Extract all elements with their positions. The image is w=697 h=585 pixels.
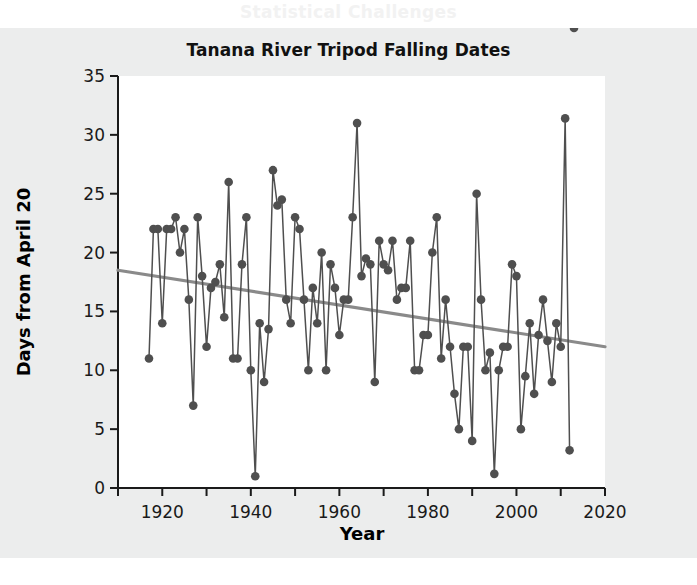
x-tick-label: 1960 (318, 502, 361, 522)
data-point (384, 266, 393, 275)
data-point (331, 284, 340, 293)
data-point (393, 295, 402, 304)
data-point (171, 213, 180, 222)
data-point (477, 295, 486, 304)
data-point (508, 260, 517, 269)
x-tick-label: 1980 (406, 502, 449, 522)
data-point (539, 295, 548, 304)
x-tick-label: 2020 (583, 502, 626, 522)
data-point (517, 425, 526, 434)
page-canvas: Statistical Challenges Tanana River Trip… (0, 0, 697, 585)
x-tick-label: 2000 (495, 502, 538, 522)
data-point (441, 295, 450, 304)
data-point (530, 390, 539, 399)
data-point (548, 378, 557, 387)
data-point (561, 114, 570, 123)
data-point (193, 213, 202, 222)
data-point (233, 354, 242, 363)
data-point (344, 295, 353, 304)
data-point (494, 366, 503, 375)
data-point (220, 313, 229, 322)
x-tick-label: 1940 (229, 502, 272, 522)
data-point (211, 278, 220, 287)
data-point (486, 348, 495, 357)
y-tick-label: 10 (83, 360, 105, 380)
data-point (242, 213, 251, 222)
data-point (463, 342, 472, 351)
data-point (432, 213, 441, 222)
data-point (437, 354, 446, 363)
data-point (570, 28, 579, 32)
y-axis: 05101520253035 (83, 66, 118, 498)
data-point (264, 325, 273, 334)
data-point (375, 237, 384, 246)
data-point (309, 284, 318, 293)
data-point (322, 366, 331, 375)
data-point (313, 319, 322, 328)
data-point (388, 237, 397, 246)
data-point (335, 331, 344, 340)
data-point (189, 401, 198, 410)
data-point (295, 225, 304, 234)
data-point (167, 225, 176, 234)
data-point (224, 178, 233, 187)
data-point (145, 354, 154, 363)
data-point (552, 319, 561, 328)
data-point (401, 284, 410, 293)
data-point (415, 366, 424, 375)
data-point (176, 248, 185, 257)
data-point (326, 260, 335, 269)
data-point (424, 331, 433, 340)
data-point (238, 260, 247, 269)
data-point (317, 248, 326, 257)
x-tick-label: 1920 (141, 502, 184, 522)
data-point (202, 342, 211, 351)
y-tick-label: 25 (83, 184, 105, 204)
data-point (503, 342, 512, 351)
data-point (525, 319, 534, 328)
y-tick-label: 15 (83, 301, 105, 321)
x-axis: 192019401960198020002020 (118, 488, 627, 522)
data-point (185, 295, 194, 304)
figure-container: Tanana River Tripod Falling Dates 051015… (0, 28, 697, 558)
data-point (357, 272, 366, 281)
data-point (282, 295, 291, 304)
data-point (490, 470, 499, 479)
y-axis-title: Days from April 20 (13, 188, 34, 377)
data-point (481, 366, 490, 375)
data-point (565, 446, 574, 455)
data-point (158, 319, 167, 328)
data-point (260, 378, 269, 387)
data-point (521, 372, 530, 381)
y-tick-label: 35 (83, 66, 105, 86)
data-point (269, 166, 278, 175)
data-point (472, 189, 481, 198)
data-point (247, 366, 256, 375)
data-point (291, 213, 300, 222)
data-point (251, 472, 260, 481)
data-point (406, 237, 415, 246)
data-point (353, 119, 362, 128)
data-point (450, 390, 459, 399)
data-point (216, 260, 225, 269)
data-point (300, 295, 309, 304)
data-point (556, 342, 565, 351)
data-point (286, 319, 295, 328)
y-tick-label: 5 (94, 419, 105, 439)
data-point (370, 378, 379, 387)
data-point (154, 225, 163, 234)
data-point (278, 195, 287, 204)
data-point (198, 272, 207, 281)
data-point (446, 342, 455, 351)
data-point (468, 437, 477, 446)
y-tick-label: 20 (83, 243, 105, 263)
x-axis-title: Year (339, 523, 385, 544)
data-point (512, 272, 521, 281)
data-point (428, 248, 437, 257)
chart-plot: 05101520253035 192019401960198020002020 … (0, 28, 697, 558)
y-tick-label: 30 (83, 125, 105, 145)
data-point (304, 366, 313, 375)
data-point (534, 331, 543, 340)
data-point (455, 425, 464, 434)
y-tick-label: 0 (94, 478, 105, 498)
